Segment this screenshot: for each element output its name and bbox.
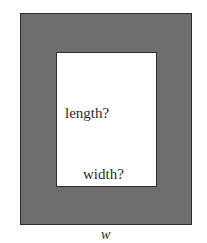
width-label: width? [83,166,124,183]
length-label: length? [65,105,109,122]
outer-width-label: w [101,227,110,243]
